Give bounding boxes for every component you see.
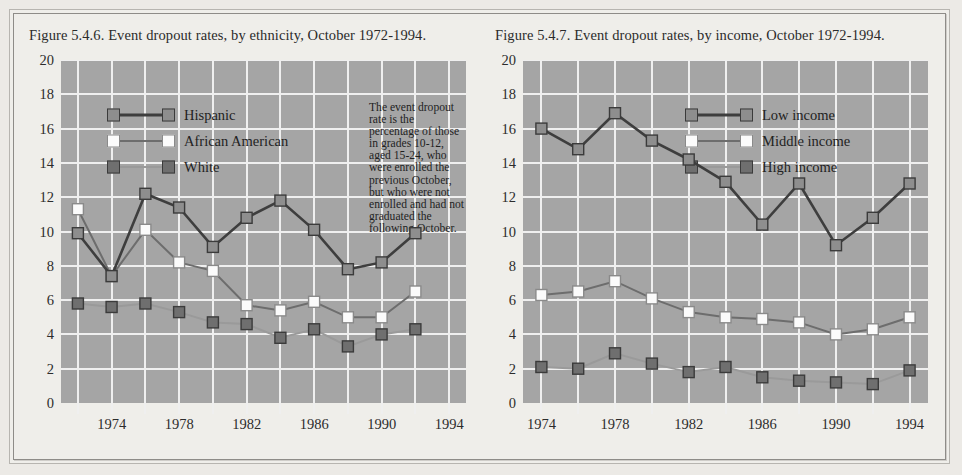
x-axis-tick-mark — [347, 403, 349, 414]
data-point-marker — [72, 204, 83, 215]
x-axis-tick-label: 1994 — [435, 416, 464, 433]
x-axis-tick-label: 1982 — [674, 416, 703, 433]
data-point-marker — [207, 265, 218, 276]
data-point-marker — [683, 154, 694, 165]
data-point-marker — [610, 348, 621, 359]
data-point-marker — [376, 312, 387, 323]
y-axis-tick-label: 4 — [509, 326, 516, 343]
data-point-marker — [241, 300, 252, 311]
x-axis-tick-label: 1986 — [748, 416, 777, 433]
x-axis-tick-mark — [798, 403, 800, 414]
y-axis-tick-label: 12 — [40, 189, 55, 206]
data-point-marker — [536, 123, 547, 134]
data-point-marker — [106, 302, 117, 313]
y-axis-tick-label: 4 — [47, 326, 54, 343]
x-axis-tick-mark — [414, 403, 416, 414]
x-axis-tick-mark — [178, 403, 180, 414]
data-point-marker — [757, 219, 768, 230]
y-axis-tick-label: 2 — [509, 360, 516, 377]
data-point-marker — [140, 224, 151, 235]
data-point-marker — [536, 290, 547, 301]
chart-ethnicity: HispanicAfrican AmericanWhite The event … — [61, 60, 466, 403]
x-axis-tick-label: 1990 — [821, 416, 850, 433]
data-point-marker — [573, 144, 584, 155]
data-point-marker — [831, 329, 842, 340]
data-point-marker — [140, 188, 151, 199]
data-point-marker — [342, 341, 353, 352]
data-point-marker — [342, 312, 353, 323]
chart-income: Low incomeMiddle incomeHigh income 02468… — [523, 60, 928, 403]
data-point-marker — [904, 178, 915, 189]
data-point-marker — [867, 379, 878, 390]
data-point-marker — [309, 224, 320, 235]
data-point-marker — [410, 228, 421, 239]
data-point-marker — [376, 329, 387, 340]
data-point-marker — [904, 312, 915, 323]
data-point-marker — [309, 296, 320, 307]
data-point-marker — [275, 305, 286, 316]
data-point-marker — [241, 212, 252, 223]
x-axis-tick-mark — [577, 403, 579, 414]
y-axis-tick-label: 16 — [502, 120, 517, 137]
figure-panel-income: Figure 5.4.7. Event dropout rates, by in… — [479, 13, 946, 460]
data-point-marker — [174, 202, 185, 213]
series-layer — [523, 60, 928, 403]
figure-panel-ethnicity: Figure 5.4.6. Event dropout rates, by et… — [13, 13, 479, 460]
data-point-marker — [275, 195, 286, 206]
x-axis-tick-mark — [725, 403, 727, 414]
y-axis-tick-label: 10 — [40, 223, 55, 240]
x-axis-tick-mark — [614, 403, 616, 414]
x-axis-tick-mark — [909, 403, 911, 414]
data-point-marker — [140, 298, 151, 309]
data-point-marker — [867, 324, 878, 335]
x-axis-tick-label: 1994 — [895, 416, 924, 433]
x-axis-tick-mark — [246, 403, 248, 414]
data-point-marker — [207, 241, 218, 252]
data-point-marker — [342, 264, 353, 275]
figure-page: Figure 5.4.6. Event dropout rates, by et… — [0, 0, 962, 475]
x-axis-tick-mark — [279, 403, 281, 414]
y-axis-tick-label: 0 — [47, 395, 54, 412]
y-axis-tick-label: 6 — [47, 292, 54, 309]
series-layer — [61, 60, 466, 403]
data-point-marker — [646, 358, 657, 369]
series-high-income — [536, 348, 915, 390]
data-point-marker — [174, 307, 185, 318]
data-point-marker — [831, 240, 842, 251]
data-point-marker — [831, 377, 842, 388]
data-point-marker — [174, 257, 185, 268]
data-point-marker — [720, 176, 731, 187]
x-axis-tick-label: 1978 — [165, 416, 194, 433]
data-point-marker — [72, 228, 83, 239]
y-axis-tick-label: 10 — [502, 223, 517, 240]
series-line — [541, 281, 909, 334]
data-point-marker — [683, 307, 694, 318]
data-point-marker — [72, 298, 83, 309]
data-point-marker — [410, 324, 421, 335]
data-point-marker — [610, 276, 621, 287]
data-point-marker — [646, 135, 657, 146]
x-axis-tick-mark — [761, 403, 763, 414]
data-point-marker — [241, 319, 252, 330]
x-axis-tick-label: 1978 — [601, 416, 630, 433]
x-axis-tick-mark — [688, 403, 690, 414]
series-hispanic — [72, 188, 421, 281]
data-point-marker — [207, 317, 218, 328]
data-point-marker — [720, 362, 731, 373]
x-axis-tick-mark — [212, 403, 214, 414]
x-axis-tick-label: 1986 — [300, 416, 329, 433]
data-point-marker — [794, 178, 805, 189]
y-axis-tick-label: 6 — [509, 292, 516, 309]
figure-title-left: Figure 5.4.6. Event dropout rates, by et… — [29, 27, 426, 44]
data-point-marker — [757, 314, 768, 325]
data-point-marker — [904, 365, 915, 376]
series-line — [78, 194, 416, 276]
x-axis-tick-mark — [313, 403, 315, 414]
data-point-marker — [410, 286, 421, 297]
series-low-income — [536, 108, 915, 251]
x-axis-tick-mark — [111, 403, 113, 414]
data-point-marker — [536, 362, 547, 373]
y-axis-tick-label: 14 — [40, 154, 55, 171]
data-point-marker — [573, 363, 584, 374]
x-axis-tick-mark — [144, 403, 146, 414]
